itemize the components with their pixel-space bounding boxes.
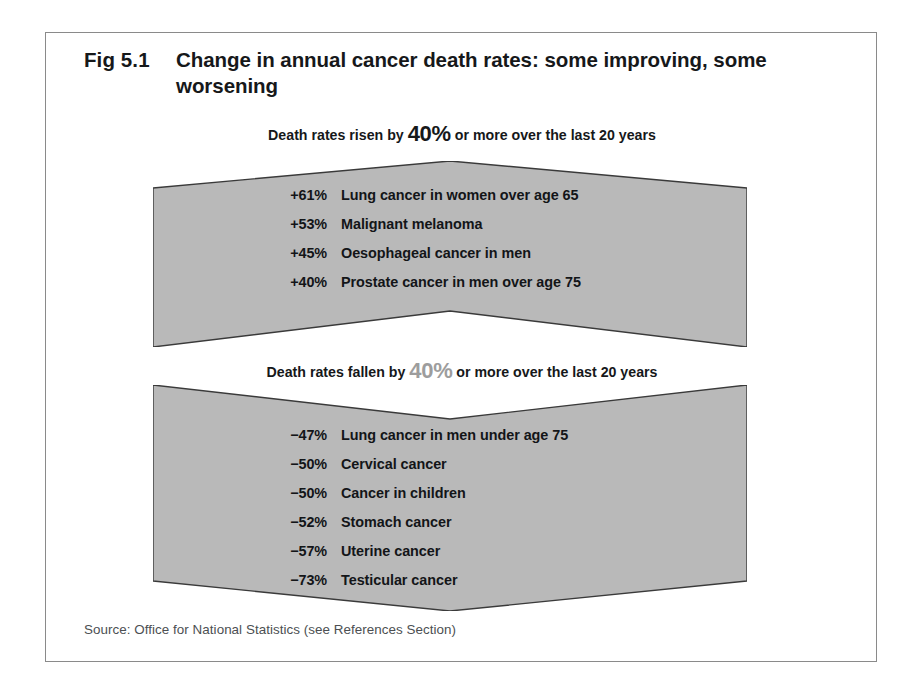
figure-frame: Fig 5.1 Change in annual cancer death ra… — [45, 32, 877, 662]
caption-risen: Death rates risen by 40% or more over th… — [46, 121, 878, 147]
caption-fallen-value: 40% — [409, 358, 452, 383]
list-item: −50% Cervical cancer — [153, 456, 747, 485]
row-label: Cervical cancer — [341, 456, 747, 472]
row-label: Lung cancer in men under age 75 — [341, 427, 747, 443]
row-label: Stomach cancer — [341, 514, 747, 530]
band-risen: +61% Lung cancer in women over age 65 +5… — [153, 161, 747, 347]
band-risen-rows: +61% Lung cancer in women over age 65 +5… — [153, 187, 747, 303]
list-item: +40% Prostate cancer in men over age 75 — [153, 274, 747, 303]
row-percent: −47% — [153, 427, 341, 443]
caption-fallen: Death rates fallen by 40% or more over t… — [46, 358, 878, 384]
list-item: −50% Cancer in children — [153, 485, 747, 514]
page-title: Change in annual cancer death rates: som… — [176, 47, 804, 99]
row-label: Oesophageal cancer in men — [341, 245, 747, 261]
row-percent: +53% — [153, 216, 341, 232]
row-percent: −52% — [153, 514, 341, 530]
list-item: +45% Oesophageal cancer in men — [153, 245, 747, 274]
list-item: −47% Lung cancer in men under age 75 — [153, 427, 747, 456]
row-percent: −73% — [153, 572, 341, 588]
row-label: Lung cancer in women over age 65 — [341, 187, 747, 203]
list-item: −52% Stomach cancer — [153, 514, 747, 543]
source-note: Source: Office for National Statistics (… — [84, 622, 456, 637]
list-item: +53% Malignant melanoma — [153, 216, 747, 245]
row-label: Uterine cancer — [341, 543, 747, 559]
row-percent: −50% — [153, 485, 341, 501]
band-fallen: −47% Lung cancer in men under age 75 −50… — [153, 385, 747, 611]
caption-fallen-suffix: or more over the last 20 years — [452, 364, 657, 380]
caption-risen-suffix: or more over the last 20 years — [451, 127, 656, 143]
row-label: Cancer in children — [341, 485, 747, 501]
caption-risen-prefix: Death rates risen by — [268, 127, 408, 143]
figure-root: Fig 5.1 Change in annual cancer death ra… — [0, 0, 921, 695]
list-item: +61% Lung cancer in women over age 65 — [153, 187, 747, 216]
row-percent: −57% — [153, 543, 341, 559]
row-label: Testicular cancer — [341, 572, 747, 588]
row-label: Malignant melanoma — [341, 216, 747, 232]
figure-title-row: Fig 5.1 Change in annual cancer death ra… — [84, 47, 804, 99]
figure-number-label: Fig 5.1 — [84, 47, 176, 73]
row-percent: +61% — [153, 187, 341, 203]
caption-risen-value: 40% — [408, 121, 451, 146]
row-percent: +45% — [153, 245, 341, 261]
row-label: Prostate cancer in men over age 75 — [341, 274, 747, 290]
list-item: −73% Testicular cancer — [153, 572, 747, 601]
list-item: −57% Uterine cancer — [153, 543, 747, 572]
row-percent: +40% — [153, 274, 341, 290]
band-fallen-rows: −47% Lung cancer in men under age 75 −50… — [153, 427, 747, 601]
caption-fallen-prefix: Death rates fallen by — [267, 364, 410, 380]
row-percent: −50% — [153, 456, 341, 472]
